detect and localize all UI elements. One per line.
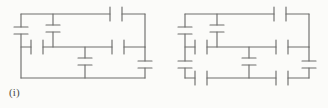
capacitor-middle-right [112,40,124,54]
capacitor-right-lower [138,61,152,68]
capacitor-bottom-left [195,71,207,85]
circuit-diagram-i [0,0,164,108]
capacitor-center-vertical [242,58,256,65]
capacitor-top-right [110,7,122,21]
capacitor-center-vertical [78,58,92,65]
capacitor-middle-left [31,40,43,54]
circuit-diagram-ii [164,0,328,108]
capacitor-top-right [274,7,286,21]
capacitor-bottom-right [276,71,288,85]
capacitor-middle-left [195,40,207,54]
capacitor-left-lower [178,61,192,68]
capacitor-left-upper [178,27,192,34]
figure-panel-ii: (ii) [164,0,328,108]
figure-caption-i: (i) [9,86,20,98]
figure-panel-i: (i) [0,0,164,108]
capacitor-middle-right [276,40,288,54]
figure-sheet: (i) [0,0,328,108]
capacitor-branch-top-middle [46,25,60,32]
capacitor-right-lower [302,61,316,68]
capacitor-left-upper [14,27,28,34]
capacitor-branch-top-middle [210,25,224,32]
